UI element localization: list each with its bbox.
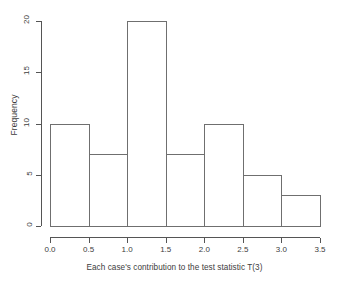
x-axis-title-text: Each case's contribution to the test sta… [87, 263, 263, 272]
x-tick-mark [127, 238, 128, 243]
x-tick-label: 3.5 [307, 245, 333, 254]
y-tick-mark [36, 21, 41, 22]
y-tick-label: 5 [9, 169, 31, 178]
y-tick-mark [36, 124, 41, 125]
histogram-bar [89, 154, 129, 227]
x-tick-mark [166, 238, 167, 243]
histogram-plot: Frequency 05101520 0.00.51.01.52.02.53.0… [0, 0, 349, 287]
histogram-bar [50, 124, 90, 228]
x-axis-line [50, 237, 320, 238]
y-tick-mark [36, 175, 41, 176]
histogram-bar [127, 21, 167, 227]
y-tick-mark [36, 72, 41, 73]
y-axis-line [41, 21, 42, 226]
x-tick-mark [320, 238, 321, 243]
y-tick-label-text: 20 [22, 15, 31, 24]
x-tick-mark [204, 238, 205, 243]
x-tick-label: 0.0 [37, 245, 63, 254]
x-tick-mark [281, 238, 282, 243]
y-tick-label: 0 [9, 220, 31, 229]
x-tick-label: 1.0 [114, 245, 140, 254]
y-tick-label: 10 [9, 118, 31, 127]
x-tick-mark [89, 238, 90, 243]
y-tick-label-text: 0 [24, 222, 33, 226]
y-tick-label-text: 15 [22, 66, 31, 75]
x-tick-label: 3.0 [268, 245, 294, 254]
y-tick-label-text: 5 [24, 171, 33, 175]
x-tick-label: 1.5 [153, 245, 179, 254]
x-tick-label: 0.5 [76, 245, 102, 254]
y-tick-label: 15 [9, 66, 31, 75]
x-tick-label: 2.0 [191, 245, 217, 254]
y-tick-mark [36, 226, 41, 227]
histogram-bar [166, 154, 206, 227]
x-tick-mark [243, 238, 244, 243]
x-axis-title: Each case's contribution to the test sta… [0, 263, 349, 272]
histogram-bar [243, 175, 283, 227]
y-tick-label-text: 10 [22, 118, 31, 127]
x-tick-label: 2.5 [230, 245, 256, 254]
y-tick-label: 20 [9, 15, 31, 24]
y-axis-title: Frequency [2, 0, 26, 230]
x-tick-mark [50, 238, 51, 243]
histogram-bar [281, 195, 321, 227]
histogram-bar [204, 124, 244, 228]
y-axis-title-text: Frequency [9, 94, 19, 135]
